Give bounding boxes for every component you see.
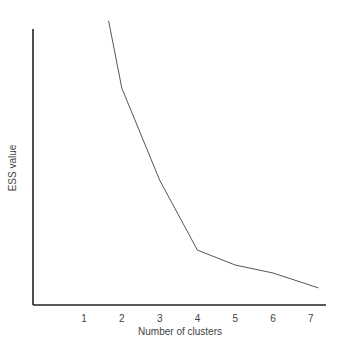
plot-area (0, 0, 343, 352)
x-tick-label: 7 (308, 313, 313, 324)
x-tick-label: 3 (157, 313, 162, 324)
x-tick-label: 5 (233, 313, 238, 324)
elbow-chart: 1234567 Number of clusters ESS value (0, 0, 343, 352)
x-tick-label: 6 (270, 313, 275, 324)
x-axis-label: Number of clusters (138, 326, 222, 337)
x-tick-label: 1 (81, 313, 86, 324)
x-tick-label: 2 (119, 313, 124, 324)
x-tick-label: 4 (195, 313, 200, 324)
y-axis-label: ESS value (7, 145, 18, 192)
ess-line (109, 21, 319, 288)
